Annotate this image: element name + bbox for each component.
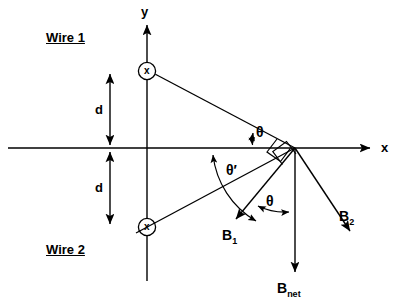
wire-1-into-page-icon: x <box>144 66 150 76</box>
vector-label-b2-sub: 2 <box>349 217 354 227</box>
wire-1-label: Wire 1 <box>46 31 85 44</box>
vector-label-b2: B2 <box>339 209 354 227</box>
vector-label-bnet: Bnet <box>277 281 301 299</box>
y-axis-label: y <box>141 5 148 18</box>
vector-label-b1-sub: 1 <box>232 236 237 246</box>
vector-label-bnet-base: B <box>277 280 287 296</box>
wire-2-label: Wire 2 <box>46 243 85 256</box>
diagram-canvas <box>0 0 404 307</box>
angle-label-theta-lower: θ <box>266 194 274 208</box>
distance-label-top: d <box>95 103 103 116</box>
angle-label-theta-prime: θ′ <box>226 163 237 177</box>
angle-arc-theta-upper <box>252 133 253 145</box>
vector-label-b2-base: B <box>339 208 349 224</box>
vector-label-b1: B1 <box>222 228 237 246</box>
distance-label-bottom: d <box>95 181 103 194</box>
magnetic-field-diagram: x y Wire 1 Wire 2 x x d d θ θ′ θ B1 B2 B… <box>0 0 404 307</box>
ray-wire2-to-point <box>136 148 295 233</box>
angle-label-theta-upper: θ <box>256 125 264 139</box>
vector-label-b1-base: B <box>222 227 232 243</box>
ray-wire1-to-point <box>155 74 295 148</box>
wire-2-into-page-icon: x <box>144 222 150 232</box>
x-axis-label: x <box>381 141 388 154</box>
vector-label-bnet-sub: net <box>287 289 301 299</box>
